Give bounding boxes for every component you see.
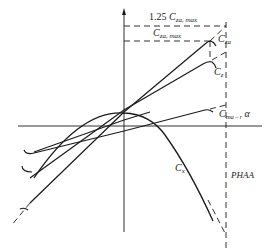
cz-low-hook [22, 166, 32, 172]
cz-extension [212, 52, 226, 60]
curve-cm [24, 110, 213, 154]
label-cm: Cma – r α [219, 109, 250, 121]
label-cza: Cza [218, 34, 231, 46]
curve-cx [34, 113, 213, 221]
cza-lower-extension [11, 203, 30, 226]
label-phaa: PHAA [231, 171, 254, 180]
label-cx: Cx [175, 163, 185, 175]
curve-cza [30, 41, 216, 203]
cm-cross-line [34, 112, 150, 152]
label-125-cza-max: 1.25 Cza, max [149, 12, 197, 24]
axis-arrow-icon [122, 8, 126, 15]
label-cz: Cz [214, 67, 223, 79]
label-cza-max: Cza, max [153, 28, 181, 40]
cza-low-hook [20, 208, 28, 210]
